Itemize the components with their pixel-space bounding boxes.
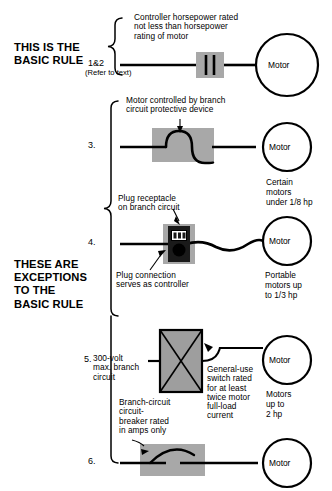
row-3-right-label: Certain motors under 1/8 hp [266, 178, 313, 208]
row-1-symbol-shade [196, 52, 224, 78]
row-5-caption-right: General-use switch rated for at least tw… [207, 365, 253, 421]
row-4-caption-below: Plug connection serves as controller [116, 271, 189, 290]
row-1-caption-above: Controller horsepower rated not less tha… [134, 13, 238, 41]
row-5-wire-right [202, 347, 220, 361]
row-3-caption-above: Motor controlled by branch circuit prote… [126, 96, 226, 115]
row-6-motor-label: Motor [269, 459, 290, 468]
row-1-subnumber: (Refer to text) [85, 69, 131, 78]
row-4-right-label: Portable motors up to 1/3 hp [265, 271, 302, 301]
row-5-switch-arrowhead [204, 343, 213, 352]
row-5-right-label: Motors up to 2 hp [266, 390, 291, 420]
row-3-motor-label: Motor [269, 143, 290, 152]
row-4-cord [186, 240, 263, 250]
row-1-number: 1&2 [88, 58, 104, 68]
plug-receptacle-icon-slot-2 [178, 233, 181, 239]
row-4-motor-label: Motor [269, 237, 290, 246]
diagram-canvas: THIS IS THE BASIC RULE THESE ARE EXCEPTI… [0, 0, 332, 491]
row-4-number: 4. [88, 237, 96, 247]
brace-exceptions-tail [111, 316, 118, 463]
heading-exceptions: THESE ARE EXCEPTIONS TO THE BASIC RULE [14, 258, 119, 311]
row-6-caption-pointer [132, 440, 144, 446]
row-3-number: 3. [88, 140, 96, 150]
row-1-motor-label: Motor [268, 61, 289, 70]
row-5-subnumber: 300-volt max. branch circuit [93, 354, 139, 382]
row-6-number: 6. [88, 456, 96, 466]
row-5-number: 5. [84, 354, 92, 364]
plug-receptacle-icon-slot-1 [174, 233, 177, 239]
plug-receptacle-icon-slot-3 [183, 233, 186, 239]
row-3-symbol-shade [152, 128, 214, 162]
row-5-motor-label: Motor [269, 356, 290, 365]
row-4-caption-below-pointer [150, 256, 160, 270]
row-4-caption-above: Plug receptacle on branch circuit [118, 194, 180, 213]
plug-receptacle-icon-plug [173, 244, 186, 257]
row-5-caption-below: Branch-circuit circuit- breaker rated in… [119, 398, 170, 435]
